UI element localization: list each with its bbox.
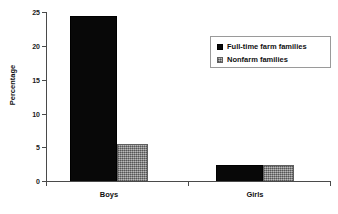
- y-tick-label-0: 0: [14, 178, 40, 185]
- x-tick-mark-left: [46, 182, 47, 186]
- y-tick-label-10-text: 10: [14, 111, 40, 118]
- y-tick-label-25: 25: [14, 9, 40, 16]
- bar-girls-full-time-farm-families: [216, 165, 263, 182]
- legend-label-nonfarm-families: Nonfarm families: [227, 56, 288, 64]
- y-tick-mark-5: [42, 147, 47, 148]
- y-tick-label-5: 5: [14, 144, 40, 151]
- y-tick-mark-20: [42, 46, 47, 47]
- y-tick-label-10: 10: [14, 111, 40, 118]
- y-tick-label-20-text: 20: [14, 43, 40, 50]
- x-category-label-boys: Boys: [79, 190, 139, 199]
- bar-chart: Percentage 25 20 15 10 5 0 Boys Girls Fu…: [0, 0, 338, 214]
- y-tick-label-0-text: 0: [14, 178, 40, 185]
- legend-swatch-icon-full-time-farm-families: [217, 44, 223, 50]
- x-tick-mark-right: [330, 182, 331, 186]
- x-tick-mark-middle: [188, 182, 189, 186]
- y-tick-label-20: 20: [14, 43, 40, 50]
- x-category-label-girls: Girls: [225, 190, 285, 199]
- legend-label-full-time-farm-families: Full-time farm families: [227, 43, 307, 51]
- y-tick-mark-10: [42, 114, 47, 115]
- y-tick-label-25-text: 25: [14, 9, 40, 16]
- y-tick-label-15-text: 15: [14, 77, 40, 84]
- bar-boys-full-time-farm-families: [70, 16, 117, 182]
- chart-legend: Full-time farm families Nonfarm families: [210, 36, 331, 68]
- y-tick-mark-15: [42, 80, 47, 81]
- legend-swatch-icon-nonfarm-families: [217, 57, 223, 63]
- y-axis-line: [46, 12, 47, 182]
- bar-girls-nonfarm-families: [263, 165, 294, 182]
- legend-item-nonfarm-families: Nonfarm families: [217, 54, 330, 65]
- legend-item-full-time-farm-families: Full-time farm families: [217, 41, 330, 52]
- y-tick-label-15: 15: [14, 77, 40, 84]
- y-tick-label-5-text: 5: [14, 144, 40, 151]
- bar-boys-nonfarm-families: [117, 144, 148, 182]
- y-tick-mark-25: [42, 12, 47, 13]
